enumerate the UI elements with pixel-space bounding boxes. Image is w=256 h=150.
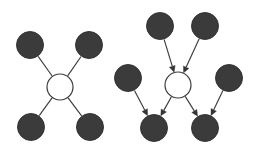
directed-edge [214, 91, 223, 110]
nodes-layer [17, 13, 243, 142]
graph-node-filled[interactable] [17, 32, 44, 59]
edge [39, 98, 52, 116]
edge [38, 56, 52, 76]
graph-node-filled[interactable] [77, 114, 104, 141]
graph-node-filled[interactable] [115, 65, 142, 92]
directed-edge [164, 97, 172, 111]
graph-node-filled[interactable] [141, 115, 168, 142]
directed-edge [186, 39, 199, 67]
graph-node-filled[interactable] [76, 32, 103, 59]
arrowhead-icon [169, 65, 175, 72]
directed-edge [134, 90, 144, 110]
graph-node-hub[interactable] [47, 74, 73, 100]
arrowhead-icon [192, 109, 198, 116]
graph-canvas [0, 0, 256, 150]
figure-root [0, 0, 256, 150]
graph-node-filled[interactable] [216, 65, 243, 92]
graph-node-filled[interactable] [18, 114, 45, 141]
graph-node-filled[interactable] [192, 13, 219, 40]
edge [68, 57, 81, 76]
directed-edge [185, 96, 194, 110]
edge [68, 98, 82, 116]
arrowhead-icon [183, 66, 188, 73]
graph-node-filled[interactable] [192, 115, 219, 142]
graph-node-filled[interactable] [147, 13, 174, 40]
graph-node-hub[interactable] [165, 72, 191, 98]
directed-edge [164, 39, 172, 66]
